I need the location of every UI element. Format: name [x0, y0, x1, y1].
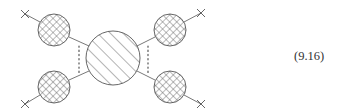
cross-icon	[21, 100, 29, 108]
blob-top-right	[154, 14, 186, 46]
leg-top-left	[25, 14, 40, 22]
cross-icon	[197, 9, 205, 17]
cross-icon	[21, 10, 29, 18]
internal-top-right	[137, 37, 155, 46]
central-blob	[86, 31, 140, 85]
internal-bottom-right	[137, 71, 155, 80]
leg-top-right	[184, 13, 201, 22]
equation-number: (9.16)	[294, 48, 324, 64]
leg-bottom-left	[25, 95, 40, 104]
feynman-diagram	[0, 0, 344, 112]
cross-icon	[197, 100, 205, 108]
blob-bottom-left	[38, 71, 70, 103]
internal-top-left	[69, 37, 89, 46]
blob-top-left	[38, 14, 70, 46]
blob-bottom-right	[154, 71, 186, 103]
leg-bottom-right	[184, 95, 201, 104]
